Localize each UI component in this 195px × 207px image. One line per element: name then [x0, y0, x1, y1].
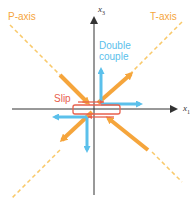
t-axis-dashed-line: [12, 22, 182, 198]
x3-axis-label: x3: [98, 4, 105, 19]
x3-subscript: 3: [102, 10, 105, 16]
p-axis-label: P-axis: [8, 11, 36, 22]
x1-subscript: 1: [187, 109, 190, 115]
focal-mechanism-diagram: P-axis T-axis Double couple Slip x3 x1: [0, 0, 195, 207]
diagram-canvas: [0, 0, 195, 207]
double-couple-label-line2: couple: [99, 51, 128, 62]
double-couple-label-line1: Double: [99, 40, 131, 51]
slip-label: Slip: [54, 93, 71, 104]
x1-axis-label: x1: [183, 103, 190, 118]
t-axis-label: T-axis: [150, 11, 177, 22]
